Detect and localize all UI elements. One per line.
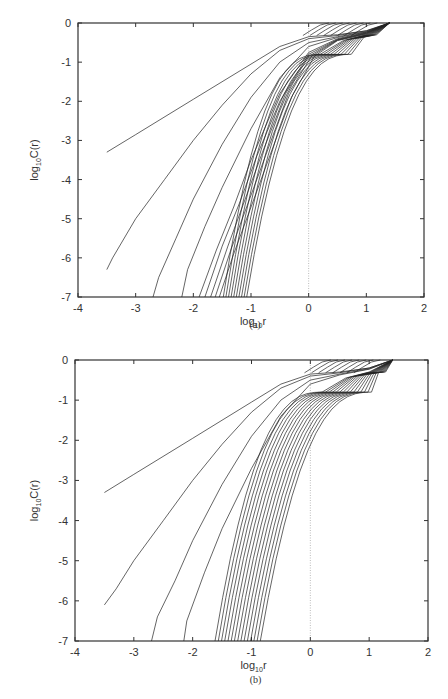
data-curve [247, 360, 392, 641]
data-curve [305, 360, 331, 373]
y-tick-label: -4 [58, 515, 68, 527]
y-tick-label: -1 [61, 56, 71, 68]
y-tick-label: -7 [58, 635, 68, 647]
x-tick-label: 1 [363, 302, 369, 314]
y-axis-label: log10C(r) [28, 139, 42, 180]
data-curve [244, 23, 389, 297]
x-tick-label: -4 [70, 646, 80, 658]
figure: -4-3-2-10120-1-2-3-4-5-6-7log10rlog10C(r… [0, 0, 448, 699]
x-tick-label: 2 [421, 302, 427, 314]
y-tick-label: 0 [62, 354, 68, 366]
panel-caption: (b) [250, 674, 262, 686]
x-tick-label: 0 [307, 646, 313, 658]
x-tick-label: -1 [246, 302, 256, 314]
y-tick-label: -1 [58, 394, 68, 406]
data-curve [310, 23, 336, 36]
y-tick-label: -2 [61, 95, 71, 107]
x-tick-label: -2 [188, 646, 198, 658]
x-tick-label: 0 [306, 302, 312, 314]
x-axis-label: log10r [240, 659, 266, 673]
data-curve [184, 360, 393, 641]
data-curve [312, 360, 339, 373]
data-curve [303, 23, 329, 36]
data-curve [104, 360, 392, 493]
y-tick-label: -7 [61, 291, 71, 303]
data-curve [152, 360, 393, 641]
chart-panel-b: -4-3-2-10120-1-2-3-4-5-6-7log10rlog10C(r… [28, 354, 431, 686]
data-curve [211, 23, 390, 297]
panel-caption: (a) [249, 319, 260, 331]
y-tick-label: -3 [58, 474, 68, 486]
data-curve [260, 360, 392, 641]
data-curve [219, 23, 389, 297]
data-curve [254, 360, 393, 641]
data-curve [104, 360, 392, 605]
y-tick-label: -6 [58, 595, 68, 607]
y-tick-label: 0 [65, 17, 71, 29]
y-tick-label: -4 [61, 174, 71, 186]
data-curve [182, 23, 390, 297]
x-tick-label: -2 [188, 302, 198, 314]
data-curve [199, 23, 389, 297]
x-tick-label: -3 [131, 302, 141, 314]
y-tick-label: -2 [58, 434, 68, 446]
x-tick-label: -3 [129, 646, 139, 658]
chart-panel-a: -4-3-2-10120-1-2-3-4-5-6-7log10rlog10C(r… [28, 17, 427, 331]
x-tick-label: -4 [73, 302, 83, 314]
y-tick-label: -3 [61, 134, 71, 146]
y-tick-label: -5 [58, 555, 68, 567]
x-tick-label: -1 [247, 646, 257, 658]
y-tick-label: -6 [61, 252, 71, 264]
data-curve [153, 23, 389, 297]
data-curve [222, 360, 393, 641]
x-tick-label: 1 [366, 646, 372, 658]
data-curve [107, 23, 390, 152]
y-axis-label: log10C(r) [28, 480, 42, 521]
x-tick-label: 2 [425, 646, 431, 658]
y-tick-label: -5 [61, 213, 71, 225]
